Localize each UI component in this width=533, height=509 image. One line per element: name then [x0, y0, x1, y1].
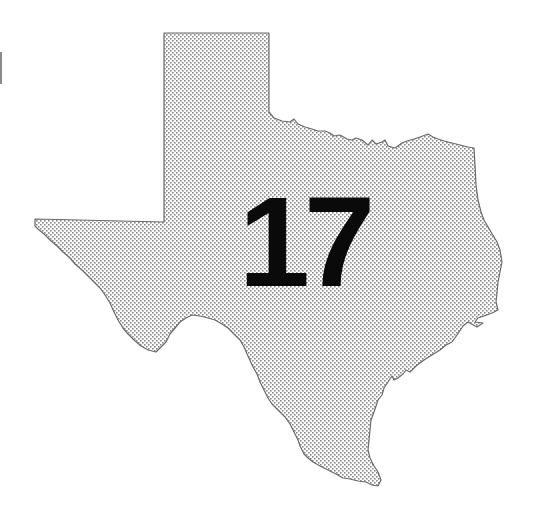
district-number-label: 17 — [236, 178, 372, 306]
